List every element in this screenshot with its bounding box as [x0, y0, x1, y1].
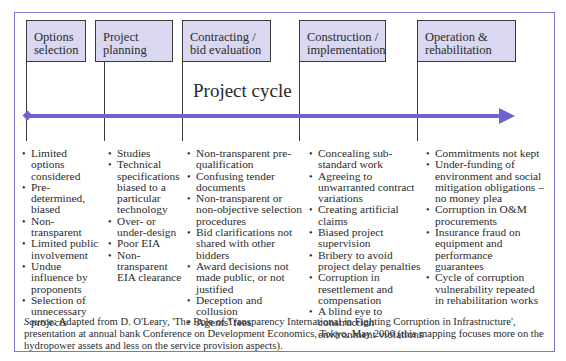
risk-list-options-selection: Limited options considered Pre-determine… — [22, 148, 102, 329]
source-text: Adapted from D. O'Leary, 'The Role of Tr… — [24, 316, 544, 351]
source-label: Source: — [24, 316, 57, 327]
list-item: Non-transparent — [22, 216, 102, 239]
risk-list-contracting-bid-evaluation: Non-transparent pre-qualification Confus… — [187, 148, 305, 329]
phase-connector-4 — [299, 62, 300, 141]
project-cycle-label: Project cycle — [193, 80, 292, 102]
list-item: Over- or under-design — [108, 216, 184, 239]
list-item: Creating artificial claims — [309, 204, 427, 227]
risk-list-project-planning: Studies Technical specifications biased … — [108, 148, 184, 284]
list-item: Award decisions not made public, or not … — [187, 261, 305, 295]
list-item: Non-transparent pre-qualification — [187, 148, 305, 171]
list-item: Technical specifications biased to a par… — [108, 159, 184, 215]
list-item: Limited public involvement — [22, 238, 102, 261]
list-item: Bribery to avoid project delay penalties — [309, 250, 427, 273]
list-item: Undue influence by proponents — [22, 261, 102, 295]
phase-connector-3 — [182, 62, 183, 141]
list-item: Limited options considered — [22, 148, 102, 182]
list-item: Biased project supervision — [309, 227, 427, 250]
phase-contracting-bid-evaluation: Contracting / bid evaluation — [182, 20, 271, 62]
list-item: Poor EIA — [108, 238, 184, 249]
list-item: Agreeing to unwarranted contract variati… — [309, 171, 427, 205]
phase-construction-implementation: Construction / implementation — [299, 20, 386, 62]
risk-list-construction-implementation: Concealing sub-standard work Agreeing to… — [309, 148, 427, 340]
phase-connector-5 — [417, 62, 418, 141]
phase-options-selection: Options selection — [26, 20, 86, 62]
list-item: Confusing tender documents — [187, 171, 305, 194]
list-item: Deception and collusion — [187, 295, 305, 318]
list-item: Corruption in O&M procurements — [426, 204, 544, 227]
risk-list-operation-rehabilitation: Commitments not kept Under-funding of en… — [426, 148, 544, 306]
list-item: Non-transparent EIA clearance — [108, 250, 184, 284]
list-item: Under-funding of environment and social … — [426, 159, 544, 204]
list-item: Cycle of corruption vulnerability repeat… — [426, 272, 544, 306]
phase-operation-rehabilitation: Operation & rehabilitation — [417, 20, 516, 62]
phase-connector-2 — [104, 62, 105, 141]
list-item: Pre-determined, biased — [22, 182, 102, 216]
source-note: Source: Adapted from D. O'Leary, 'The Ro… — [24, 316, 549, 352]
phase-label-line2: selection — [34, 44, 85, 57]
phase-project-planning: Project planning — [95, 20, 173, 62]
list-item: Concealing sub-standard work — [309, 148, 427, 171]
timeline-arrow-shaft — [28, 114, 503, 118]
list-item: Bid clarifications not shared with other… — [187, 227, 305, 261]
phase-label-line2: planning — [103, 44, 172, 57]
phase-label-line2: bid evaluation — [190, 44, 270, 57]
list-item: Non-transparent or non-objective selecti… — [187, 193, 305, 227]
phase-connector-1 — [26, 62, 27, 141]
phase-label-line2: rehabilitation — [425, 44, 515, 57]
list-item: Insurance fraud on equipment and perform… — [426, 227, 544, 272]
phase-label-line2: implementation — [307, 44, 385, 57]
timeline-arrowhead-icon — [499, 108, 515, 124]
list-item: Corruption in resettlement and compensat… — [309, 272, 427, 306]
